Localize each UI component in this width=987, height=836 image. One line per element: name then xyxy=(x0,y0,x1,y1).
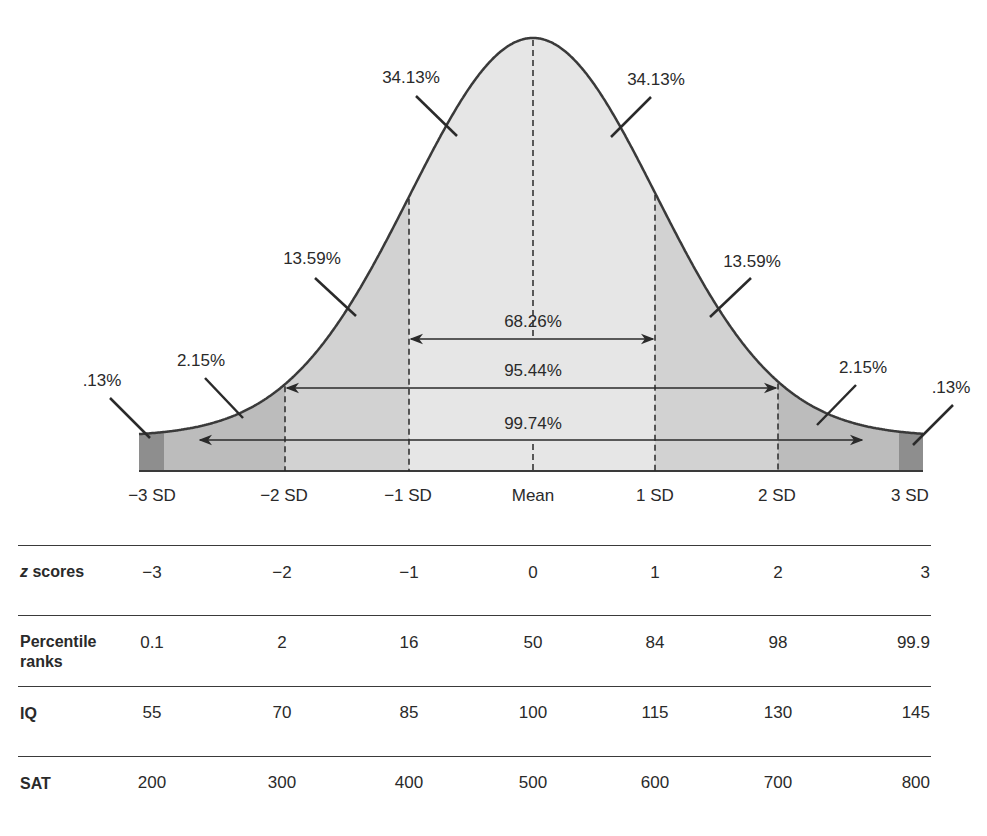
pct-label-12-right: 13.59% xyxy=(723,252,781,271)
curve-region-2 xyxy=(285,197,409,471)
span-label-99: 99.74% xyxy=(504,414,562,433)
table-cell: 55 xyxy=(143,703,162,723)
table-cell: 400 xyxy=(395,773,423,793)
table-cell: 0 xyxy=(528,563,537,583)
table-cell: 1 xyxy=(650,563,659,583)
table-cell: 50 xyxy=(524,633,543,653)
table-cell: 200 xyxy=(138,773,166,793)
axis-label-minus-2sd: −2 SD xyxy=(260,486,308,506)
table-cell: 70 xyxy=(273,703,292,723)
span-label-68: 68.26% xyxy=(504,312,562,331)
table-rule xyxy=(18,545,931,546)
table-cell: 3 xyxy=(921,563,930,583)
axis-label-minus-3sd: −3 SD xyxy=(128,486,176,506)
table-cell: 700 xyxy=(764,773,792,793)
table-cell: 300 xyxy=(268,773,296,793)
axis-label-mean: Mean xyxy=(512,486,555,506)
table-cell: 2 xyxy=(773,563,782,583)
pct-label-23-left: 2.15% xyxy=(177,351,225,370)
table-cell: 145 xyxy=(902,703,930,723)
span-label-95: 95.44% xyxy=(504,361,562,380)
curve-regions xyxy=(139,38,923,471)
table-cell: 85 xyxy=(400,703,419,723)
curve-region-3 xyxy=(409,38,533,471)
axis-label-plus-2sd: 2 SD xyxy=(758,486,796,506)
row-label-percentile-ranks: Percentileranks xyxy=(20,632,96,672)
curve-region-0 xyxy=(139,432,164,471)
table-cell: 800 xyxy=(902,773,930,793)
table-cell: 99.9 xyxy=(897,633,930,653)
table-cell: −2 xyxy=(272,563,291,583)
pct-label-01-left: 34.13% xyxy=(382,68,440,87)
z-rest: scores xyxy=(28,563,84,580)
axis-label-minus-1sd: −1 SD xyxy=(384,486,432,506)
pct-label-01-right: 34.13% xyxy=(627,70,685,89)
table-rule xyxy=(18,615,931,616)
pct-label-23-right: 2.15% xyxy=(839,358,887,377)
table-cell: 98 xyxy=(769,633,788,653)
pct-label-tail-left: .13% xyxy=(83,371,122,390)
table-cell: −1 xyxy=(399,563,418,583)
table-cell: 500 xyxy=(519,773,547,793)
pct-label-12-left: 13.59% xyxy=(283,249,341,268)
table-cell: 2 xyxy=(277,633,286,653)
pct-label-tail-right: .13% xyxy=(932,378,971,397)
axis-label-plus-3sd: 3 SD xyxy=(891,486,929,506)
table-cell: 84 xyxy=(646,633,665,653)
row-label-sat: SAT xyxy=(20,774,51,794)
row-label-iq: IQ xyxy=(20,704,37,724)
table-cell: 16 xyxy=(400,633,419,653)
table-rule xyxy=(18,686,931,687)
curve-region-5 xyxy=(655,193,778,471)
table-cell: 115 xyxy=(641,703,668,723)
table-rule xyxy=(18,756,931,757)
axis-label-plus-1sd: 1 SD xyxy=(636,486,674,506)
pr-line2: ranks xyxy=(20,653,63,670)
table-cell: 130 xyxy=(764,703,792,723)
z-italic: z xyxy=(20,563,28,580)
pr-line1: Percentile xyxy=(20,633,96,650)
table-cell: 0.1 xyxy=(140,633,164,653)
row-label-z-scores: z scores xyxy=(20,562,84,582)
normal-curve-chart: 68.26% 95.44% 99.74% .13% 2.15% 13.59% 3… xyxy=(0,0,987,530)
table-cell: 100 xyxy=(519,703,547,723)
table-cell: 600 xyxy=(641,773,669,793)
curve-region-4 xyxy=(533,38,655,471)
table-cell: −3 xyxy=(142,563,161,583)
